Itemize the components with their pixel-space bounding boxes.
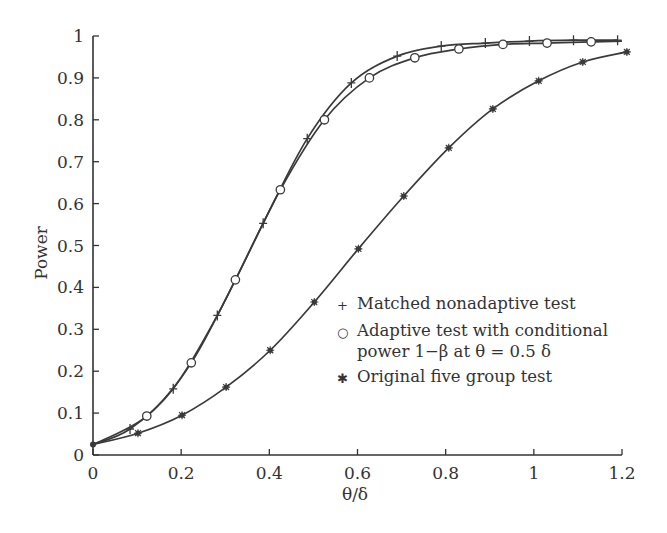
y-tick-label: 0.8: [57, 110, 84, 130]
circle-marker-icon: ○: [337, 320, 357, 343]
circle-marker-icon: [276, 186, 284, 194]
plus-marker-icon: [393, 51, 401, 61]
legend-label: Adaptive test with conditional power 1−β…: [357, 320, 608, 362]
x-tick-label: 0.8: [432, 463, 459, 483]
x-tick-label: 0.6: [344, 463, 371, 483]
legend-label: Matched nonadaptive test: [357, 293, 576, 314]
star-marker-icon: ✱: [337, 366, 357, 389]
circle-marker-icon: [411, 54, 419, 62]
star-marker-icon: [134, 429, 142, 437]
y-tick-label: 0.7: [57, 152, 84, 172]
y-tick-label: 0.9: [57, 68, 84, 88]
star-marker-icon: [579, 58, 587, 66]
circle-marker-icon: [320, 116, 328, 124]
legend-item-matched: + Matched nonadaptive test: [337, 293, 667, 316]
legend-item-original: ✱ Original five group test: [337, 366, 667, 389]
x-tick-label: 0: [88, 463, 99, 483]
legend: + Matched nonadaptive test ○ Adaptive te…: [337, 293, 667, 393]
y-tick-label: 0.3: [57, 319, 84, 339]
y-tick-label: 0.2: [57, 361, 84, 381]
x-tick-label: 0.2: [168, 463, 195, 483]
star-marker-icon: [310, 298, 318, 306]
plus-marker-icon: [525, 36, 533, 46]
star-marker-icon: [400, 192, 408, 200]
circle-marker-icon: [543, 39, 551, 47]
circle-marker-icon: [187, 359, 195, 367]
circle-marker-icon: [143, 412, 151, 420]
y-axis-label: Power: [31, 225, 51, 280]
x-tick-label: 1.2: [608, 463, 635, 483]
x-axis-label: θ/δ: [342, 484, 368, 504]
star-marker-icon: [535, 77, 543, 85]
x-tick-label: 1: [528, 463, 539, 483]
star-marker-icon: [489, 105, 497, 113]
plus-marker-icon: [437, 41, 445, 51]
circle-marker-icon: [365, 74, 373, 82]
y-tick-label: 0.6: [57, 194, 84, 214]
origin-dot: [90, 442, 96, 448]
circle-marker-icon: [231, 276, 239, 284]
star-marker-icon: [354, 245, 362, 253]
y-tick-label: 0: [73, 445, 84, 465]
star-marker-icon: [266, 346, 274, 354]
plus-marker-icon: [614, 35, 622, 45]
x-tick-label: 0.4: [256, 463, 283, 483]
y-tick-label: 0.1: [57, 403, 84, 423]
circle-marker-icon: [455, 45, 463, 53]
power-chart: 00.20.40.60.811.200.10.20.30.40.50.60.70…: [0, 0, 667, 533]
circle-marker-icon: [499, 40, 507, 48]
star-marker-icon: [178, 411, 186, 419]
star-marker-icon: [222, 383, 230, 391]
plus-marker-icon: +: [337, 293, 357, 316]
plus-marker-icon: [570, 35, 578, 45]
legend-label: Original five group test: [357, 366, 552, 387]
star-marker-icon: [445, 144, 453, 152]
y-tick-label: 0.5: [57, 236, 84, 256]
legend-item-adaptive: ○ Adaptive test with conditional power 1…: [337, 320, 667, 362]
y-tick-label: 0.4: [57, 277, 84, 297]
circle-marker-icon: [587, 38, 595, 46]
star-marker-icon: [623, 48, 631, 56]
y-tick-label: 1: [73, 26, 84, 46]
